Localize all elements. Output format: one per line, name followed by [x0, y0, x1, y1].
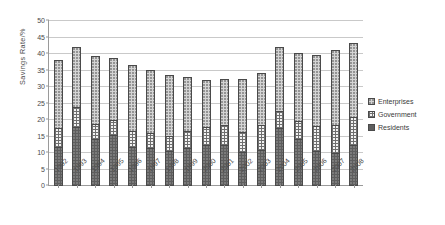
x-tick-mark — [188, 185, 189, 188]
bar-segment-government[interactable] — [109, 120, 118, 136]
x-tick-mark — [151, 185, 152, 188]
x-tick-mark — [261, 185, 262, 188]
bar-segment-government[interactable] — [257, 125, 266, 151]
government-swatch-icon — [368, 111, 375, 118]
bar-segment-government[interactable] — [165, 136, 174, 152]
y-tick-label: 20 — [37, 116, 45, 123]
bar-segment-enterprises[interactable] — [128, 65, 137, 131]
x-tick-mark — [317, 185, 318, 188]
bar-segment-government[interactable] — [238, 132, 247, 153]
y-tick-label: 10 — [37, 149, 45, 156]
y-tick-label: 0 — [41, 182, 45, 189]
bar-segment-government[interactable] — [202, 127, 211, 147]
bar-segment-government[interactable] — [128, 131, 137, 148]
chart-legend: Enterprises Government Residents — [368, 95, 417, 134]
residents-swatch-icon — [368, 124, 375, 131]
bar-segment-enterprises[interactable] — [165, 75, 174, 137]
y-tick-label: 30 — [37, 83, 45, 90]
y-tick-label: 50 — [37, 17, 45, 24]
bar-segment-enterprises[interactable] — [312, 55, 321, 127]
bar-segment-enterprises[interactable] — [109, 58, 118, 121]
x-tick-mark — [206, 185, 207, 188]
x-tick-mark — [95, 185, 96, 188]
bar-segment-enterprises[interactable] — [72, 47, 81, 108]
x-tick-mark — [114, 185, 115, 188]
bar-segment-enterprises[interactable] — [238, 79, 247, 133]
enterprises-swatch-icon — [368, 98, 375, 105]
bar-segment-enterprises[interactable] — [146, 70, 155, 134]
bar-segment-government[interactable] — [349, 117, 358, 145]
x-tick-mark — [243, 185, 244, 188]
x-tick-mark — [280, 185, 281, 188]
x-tick-mark — [77, 185, 78, 188]
y-tick-label: 40 — [37, 50, 45, 57]
y-tick-label: 15 — [37, 132, 45, 139]
x-tick-mark — [335, 185, 336, 188]
bar-segment-residents[interactable] — [72, 127, 81, 186]
x-tick-mark — [58, 185, 59, 188]
stacked-bar-chart: Savings Rate/% 05101520253035404550 1992… — [0, 0, 445, 225]
y-axis-title: Savings Rate/% — [18, 0, 27, 117]
bar-segment-government[interactable] — [294, 121, 303, 140]
y-tick-label: 45 — [37, 33, 45, 40]
bar-segment-government[interactable] — [312, 126, 321, 152]
bar-segment-government[interactable] — [72, 107, 81, 127]
legend-item-residents: Residents — [368, 121, 417, 134]
bar-segment-government[interactable] — [91, 124, 100, 140]
legend-item-enterprises: Enterprises — [368, 95, 417, 108]
bar-segment-government[interactable] — [183, 131, 192, 149]
bar-segment-enterprises[interactable] — [54, 60, 63, 129]
bar-segment-government[interactable] — [331, 125, 340, 154]
legend-label-enterprises: Enterprises — [378, 98, 413, 105]
bar-segment-residents[interactable] — [275, 128, 284, 186]
bar-segment-enterprises[interactable] — [349, 43, 358, 118]
legend-item-government: Government — [368, 108, 417, 121]
legend-label-government: Government — [378, 111, 417, 118]
x-tick-mark — [169, 185, 170, 188]
bar-segment-government[interactable] — [275, 111, 284, 129]
bar-segment-enterprises[interactable] — [91, 56, 100, 125]
x-tick-mark — [132, 185, 133, 188]
x-tick-mark — [354, 185, 355, 188]
legend-label-residents: Residents — [378, 124, 409, 131]
bar-segment-enterprises[interactable] — [275, 47, 284, 112]
bar-segment-enterprises[interactable] — [183, 77, 192, 132]
x-tick-mark — [298, 185, 299, 188]
x-tick-mark — [224, 185, 225, 188]
bar-segment-enterprises[interactable] — [331, 50, 340, 126]
bar-segment-government[interactable] — [220, 125, 229, 146]
bar-segment-enterprises[interactable] — [294, 53, 303, 122]
y-tick-label: 35 — [37, 66, 45, 73]
y-tick-label: 5 — [41, 165, 45, 172]
bar-segment-government[interactable] — [146, 133, 155, 150]
bar-segment-government[interactable] — [54, 128, 63, 148]
bar-segment-enterprises[interactable] — [202, 80, 211, 128]
bar-segment-enterprises[interactable] — [220, 79, 229, 126]
y-tick-label: 25 — [37, 99, 45, 106]
bar-segment-enterprises[interactable] — [257, 73, 266, 126]
